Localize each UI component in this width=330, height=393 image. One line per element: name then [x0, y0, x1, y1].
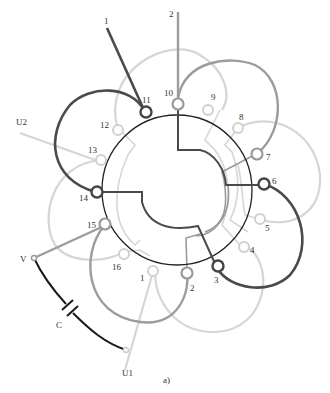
winding-diagram-svg: 11 10 9 8 7 6 5 4 3 2 1 16 15 14 13 12 1… [0, 0, 330, 393]
light-terminals [96, 105, 265, 276]
label-terminal-9: 9 [211, 92, 216, 102]
label-lead-v: V [20, 254, 27, 264]
terminal-5 [255, 214, 265, 224]
label-lead-u1: U1 [122, 368, 133, 378]
capacitor-plate-2 [67, 306, 78, 316]
label-terminal-8: 8 [239, 112, 244, 122]
label-lead-2: 2 [169, 9, 174, 19]
label-terminal-10: 10 [164, 88, 174, 98]
label-terminal-16: 16 [112, 262, 122, 272]
label-terminal-12: 12 [100, 120, 109, 130]
winding-diagram: 11 10 9 8 7 6 5 4 3 2 1 16 15 14 13 12 1… [0, 0, 330, 393]
label-terminal-1: 1 [140, 273, 145, 283]
terminal-11 [141, 107, 152, 118]
node-u1 [124, 348, 129, 353]
terminal-13 [96, 155, 106, 165]
lead-u2 [20, 133, 98, 161]
label-terminal-7: 7 [266, 152, 271, 162]
terminal-3 [213, 261, 224, 272]
terminal-1 [148, 266, 158, 276]
coil-arc-13-16 [49, 160, 122, 260]
label-terminal-5: 5 [265, 223, 270, 233]
coil-arc-4-1 [155, 246, 263, 332]
terminal-6 [259, 179, 270, 190]
terminal-15 [100, 219, 111, 230]
label-capacitor: C [56, 320, 62, 330]
terminal-12 [113, 125, 123, 135]
label-lead-u2: U2 [16, 117, 27, 127]
figure-caption: a) [163, 375, 170, 385]
terminal-14 [92, 187, 103, 198]
terminal-7 [252, 149, 263, 160]
coil-10-7 [178, 61, 278, 153]
label-terminal-13: 13 [88, 145, 98, 155]
label-terminal-4: 4 [250, 245, 255, 255]
node-v [32, 256, 37, 261]
label-terminal-3: 3 [214, 275, 219, 285]
capacitor-wire-bottom [73, 313, 126, 350]
coil-6-3 [217, 184, 302, 288]
terminal-16 [119, 249, 129, 259]
label-terminal-15: 15 [87, 220, 97, 230]
label-lead-1: 1 [104, 16, 109, 26]
terminal-9 [203, 105, 213, 115]
label-terminal-2: 2 [190, 283, 195, 293]
label-terminal-14: 14 [79, 193, 89, 203]
capacitor-wire-top [34, 258, 66, 304]
lead-1 [107, 28, 144, 110]
strand-12 [117, 130, 140, 245]
terminal-10 [173, 99, 184, 110]
label-terminal-11: 11 [142, 95, 151, 105]
strand-2 [186, 234, 200, 272]
terminal-4 [239, 242, 249, 252]
label-terminal-6: 6 [272, 176, 277, 186]
terminal-8 [233, 123, 243, 133]
terminal-2 [182, 268, 193, 279]
